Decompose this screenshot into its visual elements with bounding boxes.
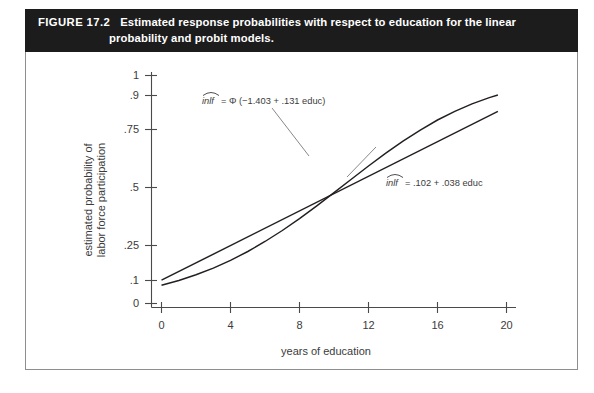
chart-canvas: 1 .9 .75 .5 .25 .1 0 0 4 8: [26, 52, 578, 369]
figure-number: FIGURE 17.2: [38, 16, 110, 28]
y-tick-label-0.25: .25: [124, 239, 139, 251]
figure-title-bar: FIGURE 17.2Estimated response probabilit…: [25, 9, 578, 52]
probit-curve: [162, 95, 498, 285]
y-tick-label-0.9: .9: [130, 89, 139, 101]
probit-equation-annotation: inlf = Φ (−1.403 + .131 educ): [202, 93, 325, 107]
plot-frame: 1 .9 .75 .5 .25 .1 0 0 4 8: [25, 52, 578, 370]
linear-probability-curve: [162, 111, 498, 280]
linear-eq-body: = .102 + .038 educ: [405, 178, 483, 188]
x-axis-title: years of education: [281, 345, 371, 357]
y-tick-label-0.5: .5: [130, 181, 139, 193]
figure-caption-line-1: Estimated response probabilities with re…: [120, 16, 516, 28]
x-tick-label-20: 20: [500, 319, 512, 331]
y-axis-title-line-1: estimated probability of: [82, 143, 94, 257]
x-tick-label-12: 12: [362, 319, 374, 331]
x-axis-tick-labels: 0 4 8 12 16 20: [158, 319, 512, 331]
x-tick-label-0: 0: [158, 319, 164, 331]
y-axis-tick-labels: 1 .9 .75 .5 .25 .1 0: [124, 69, 139, 309]
y-tick-label-0: 0: [133, 297, 139, 309]
y-tick-label-0.75: .75: [124, 123, 139, 135]
figure-title-line-1: FIGURE 17.2Estimated response probabilit…: [38, 15, 568, 31]
linear-eq-var: inlf: [386, 178, 399, 188]
linear-equation-annotation: inlf = .102 + .038 educ: [386, 175, 483, 189]
linear-leader-line: [347, 147, 376, 177]
probit-eq-var: inlf: [202, 96, 215, 106]
x-tick-label-16: 16: [431, 319, 443, 331]
figure-container: FIGURE 17.2Estimated response probabilit…: [0, 0, 594, 393]
probit-eq-body: = Φ (−1.403 + .131 educ): [221, 96, 325, 106]
y-axis-title-line-2: labor force participation: [95, 143, 107, 257]
y-tick-label-1: 1: [133, 69, 139, 81]
probit-leader-line: [272, 108, 309, 156]
y-axis-title: estimated probability of labor force par…: [82, 143, 107, 258]
x-tick-label-8: 8: [296, 319, 302, 331]
x-tick-label-4: 4: [227, 319, 233, 331]
figure-caption-line-2: probability and probit models.: [38, 31, 568, 47]
y-tick-label-0.1: .1: [130, 274, 139, 286]
